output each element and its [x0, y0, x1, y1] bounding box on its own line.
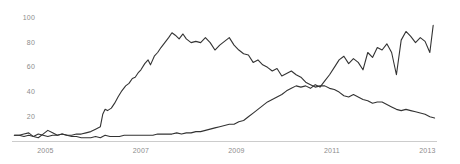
y-tick-label: 80 [13, 39, 35, 47]
y-tick-label: 100 [13, 14, 35, 22]
y-tick-label: 60 [13, 63, 35, 71]
trends-line-chart: 10080604020 20052007200920112013 [0, 0, 460, 164]
x-tick-label: 2009 [219, 147, 253, 155]
x-tick-label: 2007 [124, 147, 158, 155]
x-tick-label: 2013 [410, 147, 444, 155]
x-tick-label: 2011 [315, 147, 349, 155]
line-series-a [14, 33, 434, 137]
series-layer [14, 25, 434, 137]
x-tick-label: 2005 [28, 147, 62, 155]
chart-plot-area [0, 0, 460, 164]
y-tick-label: 40 [13, 88, 35, 96]
y-tick-label: 20 [13, 113, 35, 121]
